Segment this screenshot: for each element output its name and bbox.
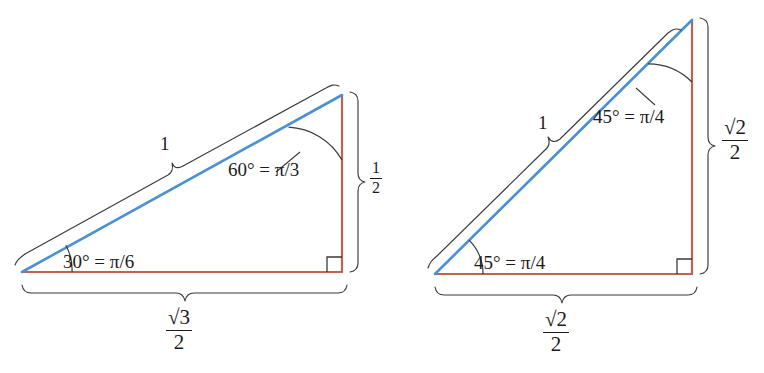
- triangle1-hypotenuse-edge: [22, 95, 342, 272]
- triangles-svg: [0, 0, 764, 373]
- triangle2-vertical-length-label: √2 2: [722, 117, 748, 164]
- fraction-numerator: 1: [370, 160, 382, 179]
- fraction-one-half: 1 2: [370, 160, 382, 196]
- special-triangles-figure: 1 30° = π/6 60° = π/3 1 2 √3 2 1 45° = π…: [0, 0, 764, 373]
- triangle1-base-brace: [22, 285, 347, 301]
- fraction-sqrt2-over-2: √2 2: [543, 309, 569, 356]
- triangle2-hypotenuse-label: 1: [538, 113, 548, 132]
- fraction-denominator: 2: [543, 333, 569, 356]
- triangle1-base-length-label: √3 2: [166, 307, 192, 354]
- triangle2-vertical-brace: [700, 18, 715, 274]
- triangle2-angle-arc-45-top: [648, 64, 692, 82]
- triangle2-hypotenuse-edge: [435, 20, 692, 274]
- triangle-45-45-90-group: [428, 18, 715, 303]
- fraction-numerator: √2: [543, 309, 569, 333]
- triangle2-angle-label-45-top: 45° = π/4: [593, 107, 664, 126]
- fraction-denominator: 2: [370, 179, 382, 197]
- fraction-sqrt3-over-2: √3 2: [166, 307, 192, 354]
- triangle1-hypotenuse-label: 1: [160, 134, 170, 153]
- triangle2-base-brace: [435, 287, 697, 303]
- fraction-numerator: √2: [722, 117, 748, 141]
- triangle1-vertical-length-label: 1 2: [370, 160, 382, 196]
- triangle2-hypotenuse-brace: [428, 29, 681, 268]
- triangle2-angle-label-45-bottom: 45° = π/4: [474, 253, 545, 272]
- triangle1-angle-label-60: 60° = π/3: [228, 160, 299, 179]
- triangle2-angle-45-leader-line: [636, 88, 655, 105]
- fraction-sqrt2-over-2: √2 2: [722, 117, 748, 164]
- fraction-denominator: 2: [166, 331, 192, 354]
- triangle1-right-angle-icon: [327, 257, 342, 272]
- fraction-numerator: √3: [166, 307, 192, 331]
- fraction-denominator: 2: [722, 141, 748, 164]
- triangle2-base-length-label: √2 2: [543, 309, 569, 356]
- triangle1-angle-label-30: 30° = π/6: [63, 252, 134, 271]
- triangle1-vertical-brace: [350, 92, 365, 272]
- triangle2-right-angle-icon: [677, 259, 692, 274]
